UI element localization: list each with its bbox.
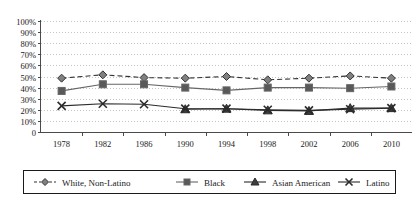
x-axis-tick-label: 1994	[218, 139, 236, 149]
y-axis-tick-label: 40%	[20, 84, 36, 94]
x-axis-tick-label: 1982	[94, 139, 111, 149]
x-axis-tick-label: 2010	[383, 139, 400, 149]
legend-label: Latino	[366, 178, 390, 188]
data-point-square-marker	[58, 87, 65, 94]
y-axis-tick-label: 50%	[20, 73, 36, 83]
data-point-square-marker	[388, 83, 395, 90]
y-axis-tick-label: 10%	[20, 117, 36, 127]
y-axis-tick-label: 100%	[16, 17, 36, 27]
y-axis-tick-label: 30%	[20, 95, 36, 105]
chart-background	[0, 0, 419, 204]
chart-container: 100%90%80%70%60%50%40%30%20%10%0 1978198…	[0, 0, 419, 204]
data-point-square-marker	[99, 81, 106, 88]
legend-label: Black	[204, 178, 225, 188]
y-axis-tick-label: 20%	[20, 106, 36, 116]
x-axis-tick-label: 1978	[53, 139, 70, 149]
data-point-square-marker	[141, 81, 148, 88]
legend-label: Asian American	[272, 178, 331, 188]
y-axis-tick-label: 90%	[20, 28, 36, 38]
x-axis-tick-label: 2006	[342, 139, 359, 149]
x-axis-tick-label: 1986	[136, 139, 153, 149]
y-axis-tick-label: 60%	[20, 61, 36, 71]
data-point-square-marker	[264, 84, 271, 91]
x-axis-tick-labels: 197819821986199019941998200220062010	[53, 139, 400, 149]
y-axis-tick-label: 0	[32, 128, 36, 138]
y-axis-tick-label: 80%	[20, 39, 36, 49]
x-axis-tick-label: 1990	[177, 139, 194, 149]
data-point-square-marker	[223, 87, 230, 94]
legend-label: White, Non-Latino	[62, 178, 131, 188]
line-chart: 100%90%80%70%60%50%40%30%20%10%0 1978198…	[0, 0, 419, 204]
data-point-square-marker	[347, 85, 354, 92]
data-point-square-marker	[182, 84, 189, 91]
x-axis-tick-label: 1998	[259, 139, 276, 149]
data-point-square-marker	[184, 179, 190, 185]
y-axis-tick-label: 70%	[20, 50, 36, 60]
data-point-square-marker	[305, 84, 312, 91]
x-axis-tick-label: 2002	[300, 139, 317, 149]
